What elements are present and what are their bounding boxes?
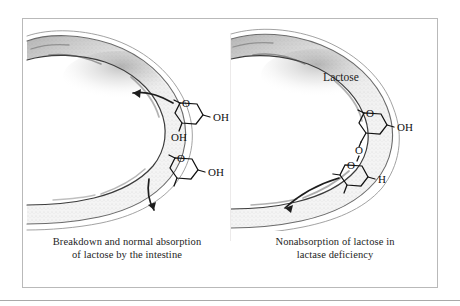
intestine-wall-left: [27, 31, 192, 230]
lactose-molecule-label: Lactose: [323, 71, 359, 83]
svg-text:OH: OH: [213, 111, 229, 123]
intestine-illustration-left: O OH OH O OH: [23, 19, 231, 231]
caption-right: Nonabsorption of lactose in lactase defi…: [235, 235, 435, 261]
panel-lactase-deficiency: O OH O O H: [231, 19, 439, 287]
intestine-illustration-right: O OH O O H: [231, 19, 439, 231]
page-bottom-rule: [0, 300, 460, 301]
caption-left: Breakdown and normal absorption of lacto…: [27, 235, 227, 261]
monosaccharide-lower-labels: O OH: [177, 152, 224, 178]
svg-text:O: O: [366, 107, 374, 119]
svg-text:OH: OH: [171, 131, 187, 143]
glycosidic-oxygen-label: O: [355, 144, 363, 156]
figure-page: O OH OH O OH Breakdown and normal abso: [0, 0, 460, 306]
svg-text:O: O: [347, 159, 355, 171]
caption-left-line1: Breakdown and normal absorption: [27, 235, 227, 248]
svg-text:O: O: [182, 97, 190, 109]
caption-right-line1: Nonabsorption of lactose in: [235, 235, 435, 248]
caption-right-line2: lactase deficiency: [235, 248, 435, 261]
intestine-wall-right: [231, 29, 399, 231]
svg-text:O: O: [177, 152, 185, 164]
svg-text:OH: OH: [397, 121, 413, 133]
svg-text:H: H: [378, 173, 386, 185]
caption-left-line2: of lactose by the intestine: [27, 248, 227, 261]
panel-normal-absorption: O OH OH O OH Breakdown and normal abso: [23, 19, 231, 287]
svg-text:OH: OH: [208, 166, 224, 178]
figure-frame: O OH OH O OH Breakdown and normal abso: [22, 18, 438, 288]
